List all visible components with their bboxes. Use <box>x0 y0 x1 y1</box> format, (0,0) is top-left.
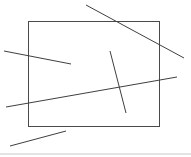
line-figure-svg: Line segments and rectangle figure <box>0 0 191 157</box>
line-left-upper <box>4 51 71 64</box>
line-bottom-short <box>10 131 66 146</box>
line-long-shallow <box>6 77 177 107</box>
figure-canvas: Line segments and rectangle figure <box>0 0 191 157</box>
shape-layer <box>0 5 191 154</box>
line-top-diagonal <box>86 5 184 58</box>
line-steep-inner <box>110 51 126 113</box>
rectangle-outline <box>29 22 160 127</box>
